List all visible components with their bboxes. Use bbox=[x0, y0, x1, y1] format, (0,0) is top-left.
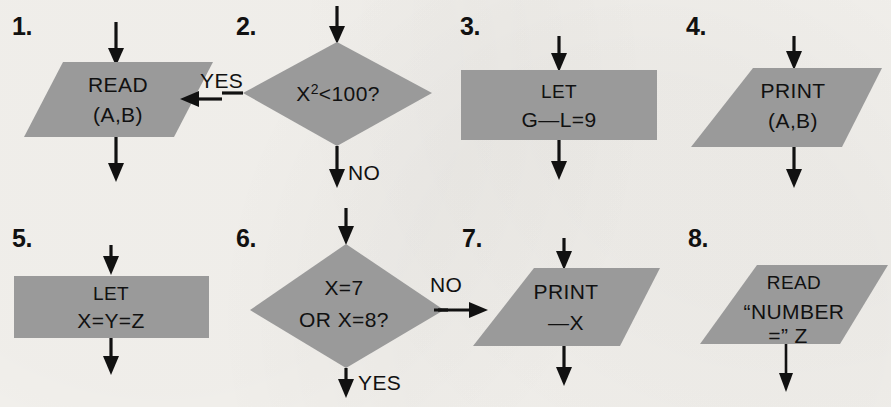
item-7-line-2: —X bbox=[548, 311, 584, 334]
item-3-line-1: LET bbox=[541, 81, 577, 102]
exercise-item-3[interactable]: 3. LET G—L=9 bbox=[448, 0, 670, 200]
figure-4: PRINT (A,B) bbox=[670, 0, 891, 200]
figure-1: READ (A,B) YES bbox=[0, 0, 222, 200]
exercise-item-1[interactable]: 1. READ (A,B) YES bbox=[0, 0, 222, 200]
figure-5: LET X=Y=Z bbox=[0, 200, 222, 407]
item-8-line-2: “NUMBER bbox=[744, 300, 845, 323]
item-5-line-2: X=Y=Z bbox=[77, 309, 144, 332]
exercise-item-8[interactable]: 8. READ “NUMBER =” Z bbox=[670, 200, 891, 407]
item-8-line-1: READ bbox=[767, 272, 821, 293]
arrow-out-bottom-7 bbox=[556, 346, 572, 386]
arrow-in-top-3 bbox=[551, 36, 567, 72]
exercise-item-7[interactable]: 7. PRINT —X bbox=[448, 200, 670, 407]
arrow-out-bottom-6 bbox=[338, 368, 354, 398]
figure-8: READ “NUMBER =” Z bbox=[670, 200, 891, 407]
exercise-item-4[interactable]: 4. PRINT (A,B) bbox=[670, 0, 891, 200]
item-6-line-2: OR X=8? bbox=[299, 308, 389, 331]
no-label-2: NO bbox=[348, 161, 380, 184]
item-1-line-1: READ bbox=[88, 73, 148, 96]
diamond-shape-6 bbox=[250, 244, 444, 368]
exercise-item-5[interactable]: 5. LET X=Y=Z bbox=[0, 200, 222, 407]
exercise-item-6[interactable]: 6. X=7 OR X=8? YES NO bbox=[222, 200, 448, 407]
arrow-in-top-5 bbox=[103, 245, 119, 275]
figure-7: PRINT —X bbox=[448, 200, 670, 407]
exercise-item-2[interactable]: 2. X2<100? NO bbox=[222, 0, 448, 200]
item-5-line-1: LET bbox=[93, 283, 129, 304]
arrow-in-top-7 bbox=[556, 238, 572, 270]
item-6-line-1: X=7 bbox=[324, 276, 363, 299]
figure-2: X2<100? NO bbox=[222, 0, 448, 200]
item-2-line-1: X2<100? bbox=[296, 81, 380, 105]
arrow-out-bottom-3 bbox=[551, 140, 567, 180]
arrow-out-bottom-4 bbox=[786, 147, 802, 188]
item-8-line-3: =” Z bbox=[768, 324, 808, 347]
arrow-in-top-6 bbox=[338, 208, 354, 245]
item-3-line-2: G—L=9 bbox=[522, 108, 597, 131]
item-1-line-2: (A,B) bbox=[93, 103, 143, 126]
arrow-out-bottom-8 bbox=[779, 344, 793, 392]
arrow-in-top-2 bbox=[329, 6, 345, 44]
arrow-in-top-1 bbox=[108, 22, 124, 66]
arrow-out-bottom-2 bbox=[329, 146, 345, 188]
item-7-line-1: PRINT bbox=[534, 280, 599, 303]
figure-6: X=7 OR X=8? YES NO bbox=[222, 200, 448, 407]
arrow-in-top-4 bbox=[786, 36, 802, 70]
yes-label-6: YES bbox=[358, 371, 401, 394]
figure-3: LET G—L=9 bbox=[448, 0, 670, 200]
item-4-line-1: PRINT bbox=[761, 79, 826, 102]
arrow-out-bottom-5 bbox=[103, 338, 119, 375]
item-4-line-2: (A,B) bbox=[768, 109, 818, 132]
flowchart-exercise-grid: 1. READ (A,B) YES 2. bbox=[0, 0, 891, 407]
arrow-out-bottom-1 bbox=[108, 137, 124, 182]
